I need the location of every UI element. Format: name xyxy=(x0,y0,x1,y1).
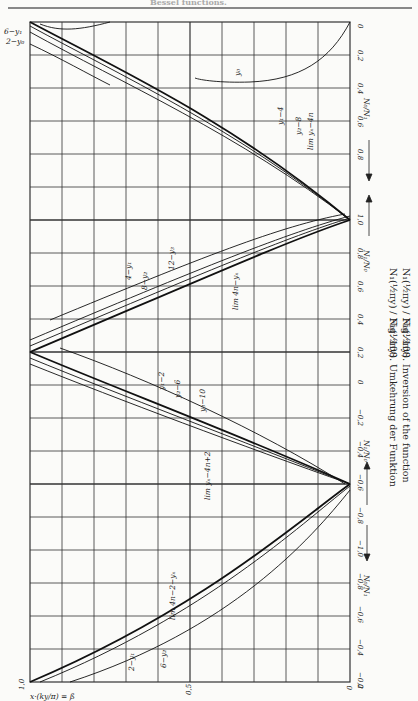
x-tick: 1,0 xyxy=(356,214,364,226)
curve-6-y2 xyxy=(40,486,350,682)
curve-label: 12−y₃ xyxy=(167,247,176,270)
curve-label: y₂−8 xyxy=(294,116,303,136)
x-tick: 0,4 xyxy=(356,83,364,94)
y-tick: 1,0 xyxy=(18,678,26,690)
x-tick: −0,2 xyxy=(356,409,364,427)
x-tick: −0,4 xyxy=(356,639,364,656)
curve-label: y₃−10 xyxy=(198,389,207,413)
curve-label: y₁−2 xyxy=(157,371,166,391)
x-tick: 0 xyxy=(356,684,364,689)
y-tick: 0,5 xyxy=(185,683,193,695)
curve-label: lim 4n−yₙ xyxy=(231,273,240,310)
curve-label: y₂−6 xyxy=(173,379,182,399)
curve-label: 8−y₂ xyxy=(140,272,149,290)
x-tick: 0,2 xyxy=(356,347,364,359)
x-tick: −0,6 xyxy=(356,606,364,624)
curve-label: y₁−4 xyxy=(276,106,285,126)
y-axis-label: x·(ky/π) = ß xyxy=(30,692,75,701)
x-tick: 0,4 xyxy=(356,314,364,325)
curve-label: lim yₙ−4n xyxy=(306,112,315,150)
x-region-label: N₁/N₀ xyxy=(362,439,371,462)
curve-labels: y₀ y₁−4 y₂−8 lim yₙ−4n 4−y₁ 8−y₂ 12−y₃ l… xyxy=(4,27,315,672)
x-tick: 0 xyxy=(356,24,364,29)
curve-2-y0 xyxy=(30,44,110,85)
x-tick: −0,8 xyxy=(356,507,364,525)
curve-y0 xyxy=(195,22,350,82)
curve-label: 2−y₁ xyxy=(127,653,136,672)
curve-label: y₀ xyxy=(233,69,242,77)
curve-label: 6−y₁ xyxy=(4,27,22,36)
curve-label: lim yₙ−4n+2 xyxy=(203,451,212,500)
x-tick: 0,2 xyxy=(356,50,364,62)
caption-english-function: N₁(½πy) / N₀(½πy) xyxy=(401,268,412,358)
curve-label: lim 4n−2−yₙ xyxy=(168,571,177,620)
curve-label: 6−y₂ xyxy=(159,650,168,668)
curve-label: 2−y₀ xyxy=(5,37,24,46)
x-tick: 0 xyxy=(356,380,364,385)
x-tick: 0,6 xyxy=(356,281,364,293)
x-tick: −1,0 xyxy=(356,540,364,558)
x-tick: 0,8 xyxy=(356,149,364,161)
curve-6-y1 xyxy=(40,22,110,29)
x-region-label: N₁/N₀ xyxy=(362,249,371,272)
x-region-label: N₀/N₁ xyxy=(362,97,371,120)
x-region-label: N₀/N₁ xyxy=(362,574,371,597)
chart-figure: 0 0,2 0,4 0,6 0,8 1,0 0,8 0,6 0,4 0,2 0 … xyxy=(0,0,418,701)
curve-label: 4−y₁ xyxy=(124,262,133,281)
arrows xyxy=(364,140,372,561)
x-tick: −0,6 xyxy=(356,474,364,492)
y-tick: 0 xyxy=(346,685,354,690)
caption-german-function: N₁(½πy) / N₀(½πy) xyxy=(388,268,399,358)
figure-caption: Fig. 108. Umkehrung der Funktion Fig. 10… xyxy=(388,268,412,487)
